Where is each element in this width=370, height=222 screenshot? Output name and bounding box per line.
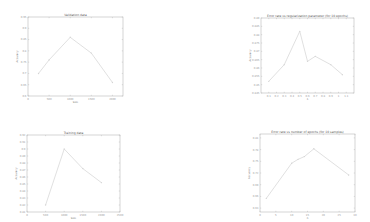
x-tick-label: 0: [27, 98, 29, 101]
y-tick-label: 0.78: [253, 149, 259, 152]
x-tick-label: 10: [290, 214, 294, 217]
x-tick-label: 500: [47, 98, 52, 101]
chart-training: Training data050010001500200025000.810.8…: [15, 131, 124, 221]
x-tick-label: 0.7: [313, 95, 317, 98]
x-tick-label: 25: [338, 214, 342, 217]
y-tick-label: 0.88: [20, 162, 26, 165]
y-tick-label: 0.75: [253, 160, 259, 163]
data-point: [315, 56, 316, 57]
chart-title: Validation data: [64, 13, 87, 17]
x-tick-label: 2000: [109, 98, 116, 101]
x-axis-label: Size: [73, 101, 79, 104]
plot-frame: [261, 18, 354, 93]
y-tick-label: 0.72: [253, 172, 259, 175]
y-tick-label: 0.86: [20, 176, 26, 179]
data-point: [45, 204, 46, 205]
data-point: [330, 64, 331, 65]
y-tick-label: 0.9: [22, 27, 26, 30]
y-tick-label: 0.81: [253, 137, 259, 140]
y-tick-label: 0.92: [20, 134, 26, 137]
data-point: [299, 31, 300, 32]
x-tick-label: 0.4: [290, 95, 294, 98]
x-tick-label: 1: [338, 95, 340, 98]
x-tick-label: 500: [43, 214, 48, 217]
y-tick-label: 0.69: [253, 184, 259, 187]
plot-frame: [27, 135, 120, 212]
y-tick-label: 0.8: [22, 50, 26, 53]
x-tick-label: 0: [259, 214, 261, 217]
data-point: [348, 174, 349, 175]
data-point: [284, 64, 285, 65]
data-point: [91, 52, 92, 53]
data-point: [342, 74, 343, 75]
data-point: [48, 59, 49, 60]
y-tick-label: 0.885: [252, 25, 260, 28]
data-line: [266, 149, 348, 199]
y-tick-label: 0.83: [20, 197, 26, 200]
data-point: [63, 148, 64, 149]
y-tick-label: 0.855: [252, 75, 260, 78]
x-tick-label: 0: [26, 214, 28, 217]
x-axis-label: λ: [307, 98, 309, 101]
y-tick-label: 0.85: [254, 84, 260, 87]
x-tick-label: 1500: [88, 98, 95, 101]
y-tick-label: 0.63: [253, 207, 259, 210]
y-tick-label: 0.85: [21, 38, 27, 41]
x-tick-label: 1500: [79, 214, 86, 217]
data-line: [46, 149, 102, 205]
figure-canvas: Validation data05001000150020000.60.650.…: [0, 0, 370, 222]
y-axis-label: Accuracy: [248, 167, 251, 179]
data-point: [38, 73, 39, 74]
y-tick-label: 0.86: [254, 67, 260, 70]
y-tick-label: 0.81: [20, 211, 26, 214]
x-tick-label: 0.8: [321, 95, 325, 98]
y-tick-label: 0.89: [20, 155, 26, 158]
y-tick-label: 0.875: [252, 42, 260, 45]
chart-title: Training data: [63, 131, 84, 135]
y-axis-label: Accuracy: [16, 50, 19, 62]
y-tick-label: 0.87: [254, 50, 260, 53]
y-tick-label: 0.87: [20, 169, 26, 172]
y-tick-label: 0.9: [21, 148, 25, 151]
y-tick-label: 0.91: [20, 141, 26, 144]
data-point: [112, 82, 113, 83]
data-point: [70, 37, 71, 38]
y-tick-label: 0.84: [20, 190, 26, 193]
chart-regularization: Error rate vs regularization parameter (…: [249, 14, 354, 102]
y-axis-label: Accuracy: [15, 167, 18, 179]
x-tick-label: 1000: [61, 214, 68, 217]
y-tick-label: 0.75: [21, 61, 27, 64]
chart-title: Error rate vs regularization parameter (…: [267, 14, 348, 18]
x-axis-label: n: [307, 217, 309, 220]
x-tick-label: 0.3: [282, 95, 286, 98]
y-tick-label: 0.85: [20, 183, 26, 186]
y-tick-label: 0.845: [252, 92, 260, 95]
x-tick-label: 0.1: [267, 95, 271, 98]
x-tick-label: 1.1: [344, 95, 348, 98]
x-tick-label: 2500: [117, 214, 124, 217]
y-tick-label: 0.65: [21, 84, 27, 87]
data-point: [82, 168, 83, 169]
x-tick-label: 0.9: [329, 95, 333, 98]
y-tick-label: 0.865: [252, 59, 260, 62]
y-axis-label: Accuracy: [249, 49, 252, 61]
plot-frame: [28, 17, 123, 96]
y-tick-label: 0.95: [21, 16, 27, 19]
data-point: [307, 61, 308, 62]
data-point: [268, 81, 269, 82]
chart-epochs: Error rate vs number of epochs (for 10 s…: [248, 130, 357, 221]
plot-frame: [260, 134, 355, 212]
x-tick-label: 0.5: [298, 95, 302, 98]
data-point: [313, 148, 314, 149]
x-axis-label: Size: [71, 217, 77, 220]
x-tick-label: 2000: [98, 214, 105, 217]
x-tick-label: 30: [353, 214, 357, 217]
data-point: [291, 163, 292, 164]
chart-title: Error rate vs number of epochs (for 10 s…: [271, 130, 343, 134]
chart-validation: Validation data05001000150020000.60.650.…: [16, 13, 123, 105]
y-tick-label: 0.7: [22, 72, 26, 75]
y-tick-label: 0.6: [22, 95, 26, 98]
x-tick-label: 5: [275, 214, 277, 217]
data-point: [304, 156, 305, 157]
data-point: [101, 182, 102, 183]
